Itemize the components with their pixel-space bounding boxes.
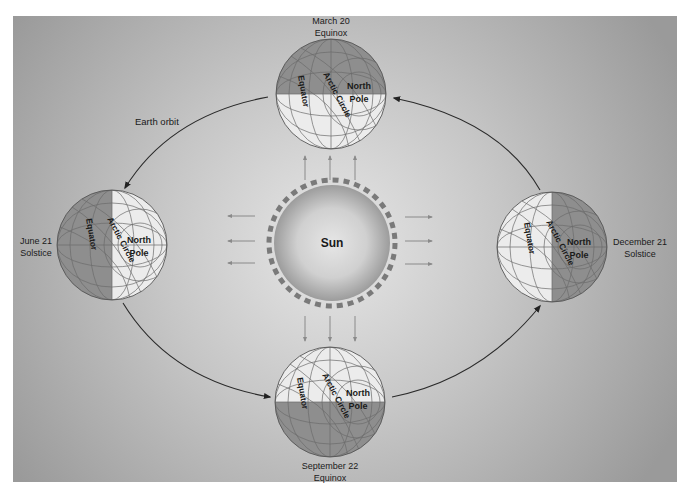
september-event-label: Equinox (314, 473, 347, 483)
june-event-label: Solstice (20, 248, 52, 258)
north-label: North (346, 388, 370, 398)
north-label: North (347, 81, 371, 91)
september-date-label: September 22 (302, 461, 359, 471)
sun: Sun (269, 180, 395, 306)
pole-label: Pole (348, 401, 367, 411)
june-date-label: June 21 (20, 236, 52, 246)
north-label: North (567, 237, 591, 247)
december-event-label: Solstice (624, 249, 656, 259)
pole-label: Pole (129, 248, 148, 258)
earth-orbit-label: Earth orbit (135, 116, 179, 127)
north-label: North (127, 235, 151, 245)
december-date-label: December 21 (613, 237, 667, 247)
seasons-diagram: Earth orbit Sun Equator Arctic Circle N (0, 0, 688, 495)
pole-label: Pole (349, 94, 368, 104)
sun-label: Sun (321, 236, 344, 250)
march-date-label: March 20 (312, 16, 350, 26)
march-event-label: Equinox (315, 28, 348, 38)
pole-label: Pole (569, 250, 588, 260)
